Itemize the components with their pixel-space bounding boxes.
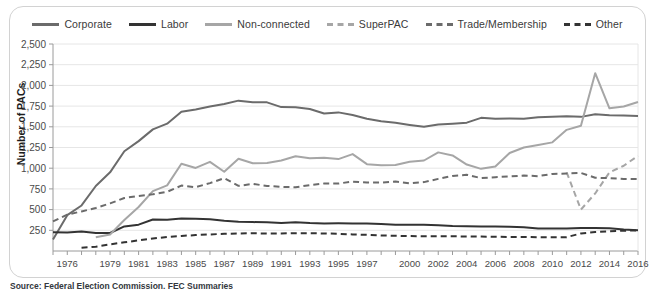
x-tick-label: 1989 bbox=[242, 258, 263, 269]
y-tick-label: 2,500 bbox=[21, 39, 46, 50]
x-tick-label: 2010 bbox=[542, 258, 563, 269]
x-tick-label: 2016 bbox=[627, 258, 648, 269]
y-tick-label: 1,250 bbox=[21, 142, 46, 153]
x-tick-label: 1995 bbox=[328, 258, 349, 269]
x-tick-label: 2008 bbox=[513, 258, 534, 269]
y-tick-label: 1,000 bbox=[21, 163, 46, 174]
y-tick-label: 1,500 bbox=[21, 121, 46, 132]
x-tick-label: 2002 bbox=[428, 258, 449, 269]
x-tick-label: 2006 bbox=[485, 258, 506, 269]
x-tick-label: 1983 bbox=[156, 258, 177, 269]
x-tick-label: 2000 bbox=[399, 258, 420, 269]
chart-screenshot: CorporateLaborNon-connectedSuperPACTrade… bbox=[0, 0, 655, 289]
line-chart-svg: 2505007501,0001,2501,5001,7502,0002,2502… bbox=[0, 0, 655, 289]
y-tick-label: 2,000 bbox=[21, 80, 46, 91]
y-tick-label: 1,750 bbox=[21, 101, 46, 112]
x-tick-label: 1981 bbox=[128, 258, 149, 269]
x-tick-label: 1979 bbox=[99, 258, 120, 269]
source-note: Source: Federal Election Commission, FEC… bbox=[10, 281, 233, 289]
x-tick-label: 2012 bbox=[570, 258, 591, 269]
y-tick-label: 250 bbox=[29, 225, 46, 236]
x-tick-label: 1987 bbox=[214, 258, 235, 269]
plot-area: 2505007501,0001,2501,5001,7502,0002,2502… bbox=[0, 0, 655, 289]
x-tick-label: 1997 bbox=[356, 258, 377, 269]
x-tick-label: 2004 bbox=[456, 258, 478, 269]
y-tick-label: 500 bbox=[29, 204, 46, 215]
x-tick-label: 2014 bbox=[599, 258, 621, 269]
y-tick-label: 750 bbox=[29, 184, 46, 195]
x-tick-label: 1985 bbox=[185, 258, 206, 269]
x-tick-label: 1976 bbox=[57, 258, 78, 269]
x-tick-label: 1993 bbox=[299, 258, 320, 269]
x-tick-label: 1991 bbox=[271, 258, 292, 269]
y-tick-label: 2,250 bbox=[21, 59, 46, 70]
